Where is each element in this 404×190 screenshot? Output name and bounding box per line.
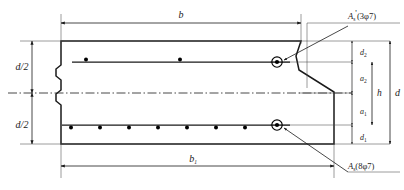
rebar-dot (214, 126, 218, 130)
rebar-dot (275, 123, 279, 127)
dimension-label-h: h (377, 88, 382, 98)
rebar-dot (156, 126, 160, 130)
rebar-dot (127, 126, 131, 130)
rebar-dot (178, 58, 182, 62)
dimension-label-d2: d2 (360, 48, 367, 58)
rebar-dot (185, 126, 189, 130)
dimension-label-d1: d1 (360, 133, 367, 143)
bottom-reinforcement-label: As(8φ7) (347, 161, 375, 172)
drawing-canvas: b b1 d/2 d/2 d2 (0, 0, 404, 190)
dimension-label-a1: a1 (360, 107, 367, 117)
rebar-dot (98, 126, 102, 130)
rebar-dot (243, 126, 247, 130)
engineering-drawing-figure: b b1 d/2 d/2 d2 (0, 0, 404, 190)
dimension-label-upper-half-depth: d/2 (16, 61, 29, 72)
top-reinforcement-label: As'(3φ7) (347, 8, 376, 22)
dimension-label-b1: b1 (189, 153, 197, 165)
rebar-dot (84, 58, 88, 62)
dimension-label-d: d (395, 87, 401, 98)
rebar-dot (69, 126, 73, 130)
dimension-label-b: b (179, 9, 184, 20)
rebar-dot (275, 60, 279, 64)
section-outline (56, 41, 334, 144)
dimension-label-lower-half-depth: d/2 (16, 119, 29, 130)
dimension-label-a2: a2 (360, 74, 367, 84)
